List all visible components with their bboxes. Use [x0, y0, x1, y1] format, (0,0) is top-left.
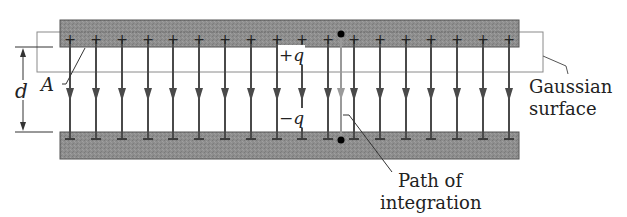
path-label-line1: Path of	[398, 170, 462, 191]
gaussian-leader-line	[543, 56, 568, 74]
plus-charge-icon: +	[193, 31, 205, 47]
field-arrowhead-icon	[247, 88, 255, 101]
plus-charge-icon: +	[503, 31, 515, 47]
plus-charge-icon: +	[142, 31, 154, 47]
field-arrowhead-icon	[479, 88, 487, 101]
field-arrowhead-icon	[195, 88, 203, 101]
minus-q-label: −q	[278, 108, 305, 128]
field-arrowhead-icon	[298, 88, 306, 101]
plus-charge-icon: +	[374, 31, 386, 47]
plus-charge-icon: +	[348, 31, 360, 47]
field-arrowhead-icon	[376, 88, 384, 101]
field-arrowhead-icon	[324, 88, 332, 101]
path-label-line2: integration	[380, 192, 482, 213]
field-arrowhead-icon	[350, 88, 358, 101]
field-arrowhead-icon	[144, 88, 152, 101]
gaussian-surface-label-line2: surface	[529, 98, 597, 119]
field-arrowhead-icon	[92, 88, 100, 101]
bottom-plate	[60, 132, 519, 159]
area-leader-line	[62, 48, 85, 84]
separation-label: d	[15, 79, 28, 103]
plus-charge-icon: +	[477, 31, 489, 47]
plus-charge-icon: +	[116, 31, 128, 47]
field-arrowhead-icon	[118, 88, 126, 101]
gaussian-surface-label-line1: Gaussian	[529, 76, 612, 97]
field-arrowhead-icon	[402, 88, 410, 101]
area-label: A	[41, 74, 54, 95]
plus-charge-icon: +	[90, 31, 102, 47]
plus-charge-icon: +	[64, 31, 76, 47]
field-arrowhead-icon	[169, 88, 177, 101]
plus-charge-icon: +	[451, 31, 463, 47]
plus-charge-icon: +	[167, 31, 179, 47]
plus-charge-icon: +	[425, 31, 437, 47]
field-arrowhead-icon	[273, 88, 281, 101]
field-arrowhead-icon	[427, 88, 435, 101]
plus-charge-icon: +	[219, 31, 231, 47]
plus-charge-icon: +	[322, 31, 334, 47]
field-arrowhead-icon	[505, 88, 513, 101]
plus-charge-icon: +	[400, 31, 412, 47]
field-arrowhead-icon	[66, 88, 74, 101]
plus-charge-icon: +	[245, 31, 257, 47]
capacitor-diagram: ++++++++++++++++++ d A +q −q Gaussian su…	[0, 0, 627, 217]
field-arrowhead-icon	[453, 88, 461, 101]
plus-q-label: +q	[278, 45, 305, 65]
field-arrowhead-icon	[221, 88, 229, 101]
